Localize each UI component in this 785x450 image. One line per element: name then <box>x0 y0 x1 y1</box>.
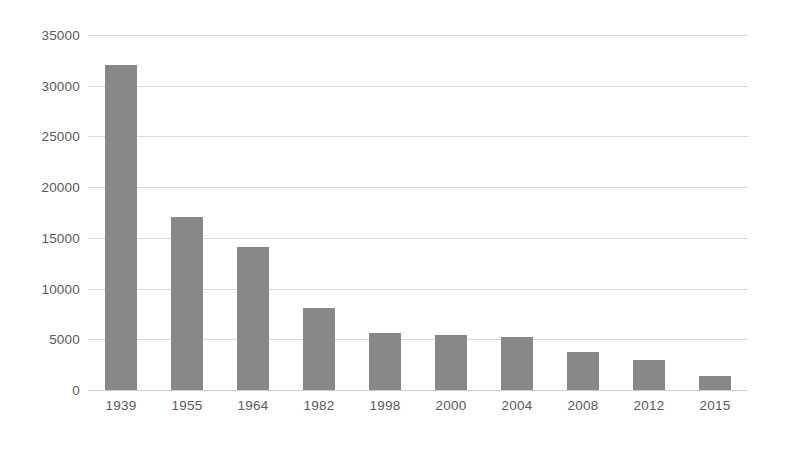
x-tick-label-1998: 1998 <box>370 398 401 413</box>
bar-chart: 05000100001500020000250003000035000 1939… <box>0 0 785 450</box>
y-axis-tick-labels: 05000100001500020000250003000035000 <box>0 35 80 390</box>
x-axis-tick-labels: 1939195519641982199820002004200820122015 <box>88 398 748 426</box>
plot-area <box>88 35 748 390</box>
bar-1998 <box>369 333 401 390</box>
gridline-0 <box>88 390 748 391</box>
y-tick-label-15000: 15000 <box>0 230 80 245</box>
bar-1955 <box>171 217 203 390</box>
x-tick-label-2000: 2000 <box>436 398 467 413</box>
x-tick-label-2008: 2008 <box>568 398 599 413</box>
bar-2012 <box>633 360 665 390</box>
y-tick-label-5000: 5000 <box>0 332 80 347</box>
y-tick-label-30000: 30000 <box>0 78 80 93</box>
x-tick-label-2015: 2015 <box>700 398 731 413</box>
bar-1982 <box>303 308 335 390</box>
x-tick-label-1982: 1982 <box>304 398 335 413</box>
y-tick-label-20000: 20000 <box>0 180 80 195</box>
y-tick-label-35000: 35000 <box>0 28 80 43</box>
bar-series <box>88 35 748 390</box>
x-tick-label-1964: 1964 <box>238 398 269 413</box>
bar-1939 <box>105 65 137 390</box>
bar-2008 <box>567 352 599 390</box>
x-tick-label-1939: 1939 <box>106 398 137 413</box>
bar-2004 <box>501 337 533 390</box>
y-tick-label-0: 0 <box>0 383 80 398</box>
y-tick-label-10000: 10000 <box>0 281 80 296</box>
bar-1964 <box>237 247 269 390</box>
bar-2015 <box>699 376 731 390</box>
x-tick-label-2012: 2012 <box>634 398 665 413</box>
y-tick-label-25000: 25000 <box>0 129 80 144</box>
x-tick-label-2004: 2004 <box>502 398 533 413</box>
bar-2000 <box>435 335 467 390</box>
x-tick-label-1955: 1955 <box>172 398 203 413</box>
